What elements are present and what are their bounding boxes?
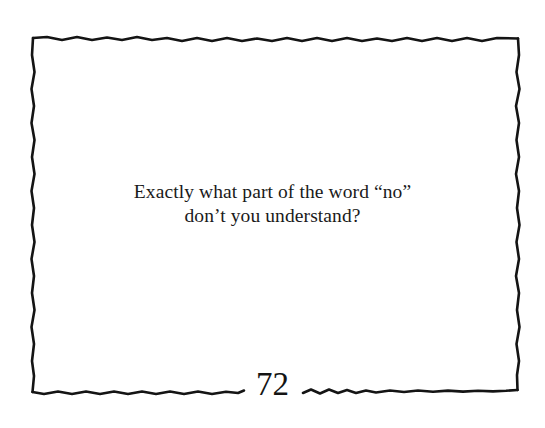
quote-text: Exactly what part of the word “no” don’t… <box>0 180 545 228</box>
frame-top-edge <box>33 37 518 41</box>
quote-line-2: don’t you understand? <box>0 204 545 228</box>
quote-line-1: Exactly what part of the word “no” <box>0 180 545 204</box>
page-canvas: Exactly what part of the word “no” don’t… <box>0 0 545 428</box>
page-number: 72 <box>0 366 545 402</box>
